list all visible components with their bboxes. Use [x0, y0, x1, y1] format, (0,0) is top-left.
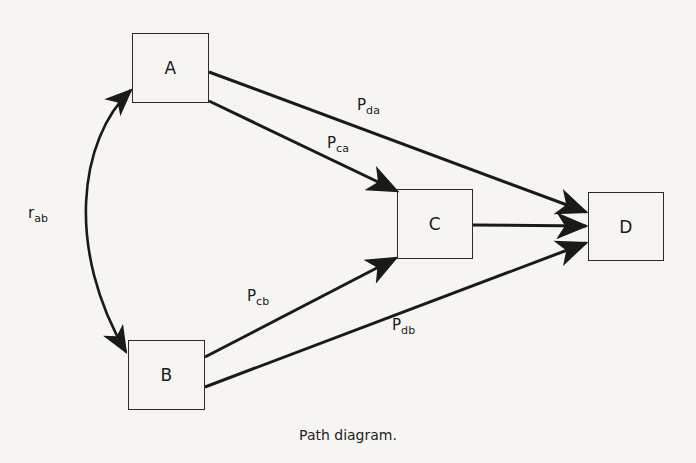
node-d-label: D [619, 217, 633, 237]
edge-label-pda-subscript: da [366, 104, 380, 117]
edge-label-rab: rab [28, 206, 48, 224]
node-a: A [132, 33, 209, 103]
node-d: D [588, 192, 664, 261]
edge-rab-curve [86, 90, 131, 352]
node-c: C [397, 189, 473, 259]
node-b-label: B [160, 365, 172, 385]
path-diagram-figure: A B C D rab Pda Pca Pcb Pdb Path diagram… [0, 0, 696, 463]
edge-label-pcb-symbol: P [247, 287, 256, 305]
edge-label-pdb-subscript: db [401, 324, 415, 337]
edge-label-pca: Pca [327, 136, 349, 154]
edge-label-pcb: Pcb [247, 289, 269, 307]
edge-label-pda-symbol: P [357, 96, 366, 114]
edge-label-pca-subscript: ca [336, 142, 349, 155]
edge-label-rab-subscript: ab [34, 212, 48, 225]
node-c-label: C [429, 214, 441, 234]
edge-label-pcb-subscript: cb [256, 295, 269, 308]
edge-label-pdb-symbol: P [392, 316, 401, 334]
figure-caption: Path diagram. [0, 427, 696, 443]
node-a-label: A [164, 58, 176, 78]
node-b: B [128, 340, 205, 410]
edge-pcb-line [205, 258, 396, 357]
edge-cd-line [473, 225, 586, 226]
edge-pdb-line [205, 243, 586, 387]
edge-label-pca-symbol: P [327, 134, 336, 152]
edge-label-pdb: Pdb [392, 318, 415, 336]
edge-label-pda: Pda [357, 98, 380, 116]
